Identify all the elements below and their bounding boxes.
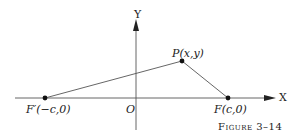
- x-axis-label: X: [279, 92, 287, 103]
- origin-label: O: [126, 104, 135, 115]
- diagram-canvas: [0, 0, 295, 140]
- point-p-label: P(x,y): [172, 48, 204, 59]
- segment-fprime-p: [45, 61, 182, 98]
- figure-caption: Figure 3–14: [218, 122, 282, 132]
- point-f: [226, 96, 231, 101]
- point-f-prime: [43, 96, 48, 101]
- point-f-label: F(c,0): [214, 104, 247, 115]
- x-axis-arrow-icon: [264, 95, 276, 101]
- point-f-prime-label: F′(−c,0): [26, 104, 71, 115]
- segment-p-f: [182, 61, 228, 98]
- y-axis-label: Y: [134, 9, 141, 20]
